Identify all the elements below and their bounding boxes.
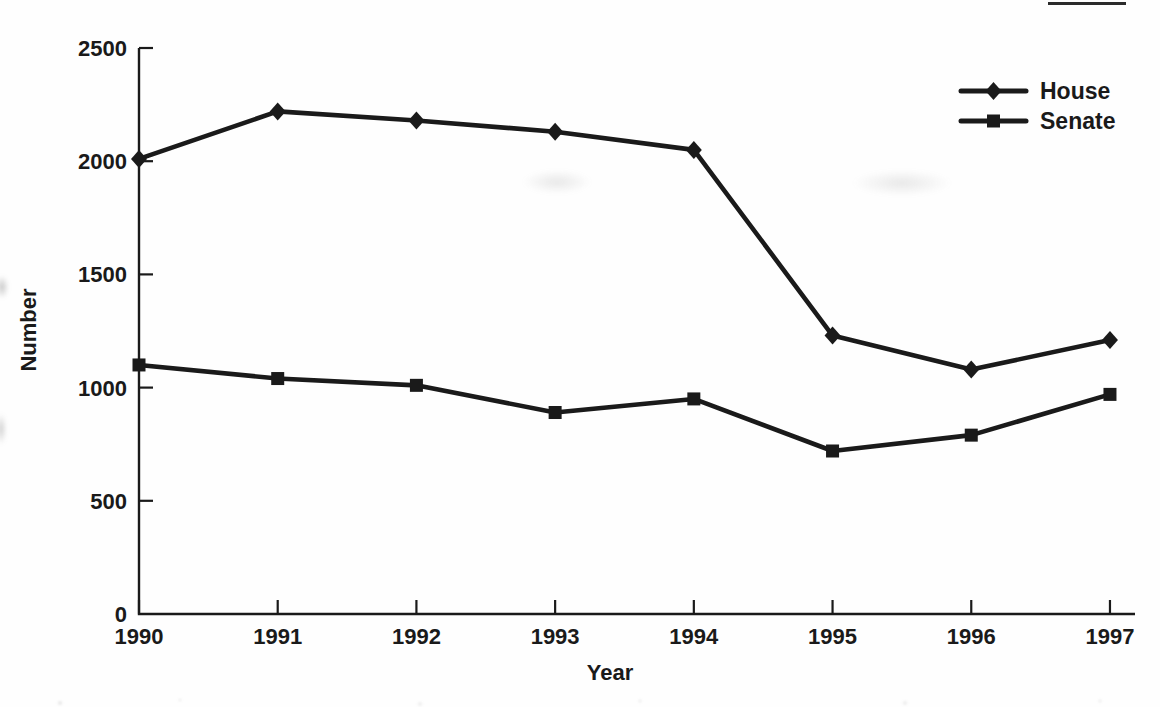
x-tick-label: 1996 bbox=[947, 624, 996, 649]
senate-line bbox=[139, 365, 1110, 451]
y-tick-label: 2000 bbox=[78, 149, 127, 174]
x-axis-title: Year bbox=[587, 660, 634, 685]
axes bbox=[139, 48, 1135, 614]
axis-lines bbox=[139, 48, 1135, 614]
scanned-chart-page: 05001000150020002500 1990199119921993199… bbox=[0, 0, 1160, 707]
legend-marker-house bbox=[986, 82, 1002, 100]
house-marker bbox=[547, 123, 563, 141]
y-axis-ticks bbox=[139, 48, 153, 501]
y-tick-label: 500 bbox=[90, 489, 127, 514]
legend: HouseSenate bbox=[961, 78, 1115, 134]
y-axis-tick-labels: 05001000150020002500 bbox=[78, 36, 127, 627]
y-axis-title: Number bbox=[16, 288, 41, 372]
house-line bbox=[139, 111, 1110, 369]
x-tick-label: 1997 bbox=[1085, 624, 1134, 649]
house-marker bbox=[270, 102, 286, 120]
senate-marker bbox=[965, 429, 978, 442]
legend-label-house: House bbox=[1040, 78, 1110, 104]
house-marker bbox=[408, 111, 424, 129]
x-tick-label: 1995 bbox=[808, 624, 857, 649]
house-marker bbox=[963, 360, 979, 378]
y-tick-label: 1000 bbox=[78, 376, 127, 401]
senate-marker bbox=[549, 406, 562, 419]
house-marker bbox=[1102, 331, 1118, 349]
senate-marker bbox=[687, 392, 700, 405]
senate-marker bbox=[133, 358, 146, 371]
x-tick-label: 1993 bbox=[531, 624, 580, 649]
line-chart: 05001000150020002500 1990199119921993199… bbox=[0, 0, 1160, 707]
x-tick-label: 1990 bbox=[115, 624, 164, 649]
x-tick-label: 1992 bbox=[392, 624, 441, 649]
senate-marker bbox=[410, 379, 423, 392]
y-tick-label: 1500 bbox=[78, 262, 127, 287]
x-tick-label: 1994 bbox=[669, 624, 719, 649]
senate-marker bbox=[826, 444, 839, 457]
x-axis-tick-labels: 19901991199219931994199519961997 bbox=[115, 624, 1135, 649]
legend-label-senate: Senate bbox=[1040, 108, 1115, 134]
y-tick-label: 2500 bbox=[78, 36, 127, 61]
x-axis-ticks bbox=[139, 600, 1110, 614]
legend-marker-senate bbox=[987, 115, 1000, 128]
senate-marker bbox=[1103, 388, 1116, 401]
data-series bbox=[131, 102, 1118, 457]
senate-marker bbox=[271, 372, 284, 385]
x-tick-label: 1991 bbox=[253, 624, 302, 649]
house-marker bbox=[131, 150, 147, 168]
